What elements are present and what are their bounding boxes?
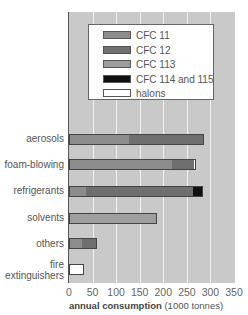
x-tick: 0 [66, 286, 72, 298]
x-tick: 300 [202, 286, 220, 298]
legend-item-halons: halons [103, 88, 165, 98]
segment-halons [194, 160, 195, 169]
segment-cfc11 [70, 239, 82, 248]
bar-foam-blowing [69, 159, 196, 170]
segment-cfc11 [70, 187, 86, 196]
category-label-others: others [36, 238, 64, 249]
segment-cfc12 [82, 239, 96, 248]
legend-item-cfc12: CFC 12 [103, 45, 170, 55]
legend-label: CFC 113 [136, 59, 175, 70]
segment-cfc12 [129, 135, 203, 144]
segment-cfc11 [70, 135, 129, 144]
legend-swatch [103, 60, 131, 68]
legend-swatch [103, 46, 131, 54]
x-axis-label: annual consumption (1000 tonnes) [0, 300, 248, 311]
legend-swatch [103, 31, 131, 39]
segment-cfc11 [70, 160, 172, 169]
legend-item-cfc11: CFC 11 [103, 30, 170, 40]
bar-refrigerants [69, 186, 203, 197]
legend-swatch [103, 75, 131, 83]
x-tick: 150 [131, 286, 149, 298]
category-label-aerosols: aerosols [26, 133, 64, 144]
segment-halons [70, 265, 83, 274]
category-label-refrigerants: refrigerants [13, 185, 64, 196]
bar-aerosols [69, 134, 204, 145]
category-label-extinguishers: extinguishers [5, 270, 64, 281]
legend-label: CFC 114 and 115 [136, 74, 213, 85]
segment-cfc12 [86, 187, 193, 196]
legend-label: halons [136, 88, 165, 99]
segment-cfc12 [172, 160, 194, 169]
x-tick: 200 [155, 286, 173, 298]
legend-label: CFC 12 [136, 45, 170, 56]
x-axis-title: annual consumption [69, 300, 162, 311]
x-tick: 250 [178, 286, 196, 298]
legend-item-cfc114-115: CFC 114 and 115 [103, 74, 213, 84]
category-label-foam-blowing: foam-blowing [5, 159, 64, 170]
segment-cfc114-115 [193, 187, 202, 196]
x-tick: 50 [87, 286, 99, 298]
x-tick: 100 [107, 286, 125, 298]
legend-item-cfc113: CFC 113 [103, 59, 175, 69]
category-label-solvents: solvents [27, 212, 64, 223]
category-label-fire: fire [50, 259, 64, 270]
x-axis-unit: (1000 tonnes) [164, 300, 223, 311]
legend: CFC 11 CFC 12 CFC 113 CFC 114 and 115 ha… [88, 24, 214, 100]
legend-label: CFC 11 [136, 30, 170, 41]
bar-others [69, 238, 97, 249]
bar-fire-extinguishers [69, 264, 84, 275]
legend-swatch [103, 89, 131, 97]
bar-solvents [69, 213, 157, 224]
segment-cfc113 [70, 214, 156, 223]
x-tick: 350 [225, 286, 243, 298]
